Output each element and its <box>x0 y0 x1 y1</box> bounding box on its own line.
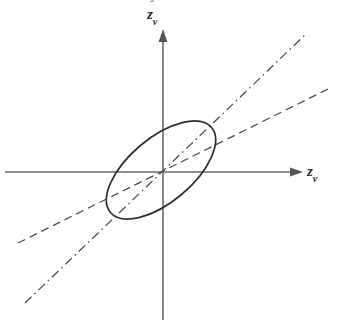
horizontal-axis-arrowhead <box>290 168 303 177</box>
horizontal-axis <box>5 168 303 177</box>
dash-dot-line <box>25 35 305 303</box>
confidence-ellipse <box>90 103 232 237</box>
horizontal-axis-label: zv <box>307 163 317 182</box>
dashed-line <box>18 88 330 243</box>
horizontal-axis-label-base: z <box>307 163 313 179</box>
figure-canvas: zˆv zv <box>0 0 338 329</box>
vertical-axis-label-subscript: v <box>153 16 157 27</box>
horizontal-axis-label-subscript: v <box>313 173 317 184</box>
vertical-axis-label: zˆv <box>147 6 157 25</box>
vertical-axis-label-hat-icon: ˆ <box>150 0 154 10</box>
figure-svg <box>0 0 338 329</box>
vertical-axis-arrowhead <box>159 29 168 42</box>
